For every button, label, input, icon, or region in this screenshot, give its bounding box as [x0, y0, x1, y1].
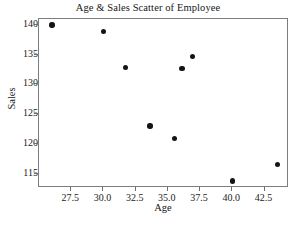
data-point	[275, 162, 280, 167]
data-point	[123, 65, 128, 70]
plot-frame	[38, 18, 288, 187]
x-tick-mark	[102, 187, 103, 191]
x-tick-mark	[199, 187, 200, 191]
y-tick-label: 140	[4, 19, 38, 29]
y-tick-label: 115	[4, 168, 38, 178]
x-tick-mark	[264, 187, 265, 191]
plot-area	[39, 19, 287, 186]
data-point	[230, 178, 235, 183]
data-point	[172, 136, 177, 141]
y-tick-label: 135	[4, 49, 38, 59]
data-point	[147, 123, 152, 128]
x-tick-mark	[167, 187, 168, 191]
x-axis-label: Age	[38, 202, 288, 213]
scatter-chart-figure: Age & Sales Scatter of Employee 11512012…	[0, 0, 296, 226]
x-tick-mark	[135, 187, 136, 191]
chart-title: Age & Sales Scatter of Employee	[0, 2, 296, 13]
data-point	[190, 54, 195, 59]
data-point	[101, 29, 106, 34]
x-tick-mark	[231, 187, 232, 191]
y-axis-label: Sales	[6, 69, 17, 129]
data-point	[179, 66, 184, 71]
data-point	[49, 22, 54, 27]
x-tick-mark	[70, 187, 71, 191]
y-tick-label: 120	[4, 138, 38, 148]
